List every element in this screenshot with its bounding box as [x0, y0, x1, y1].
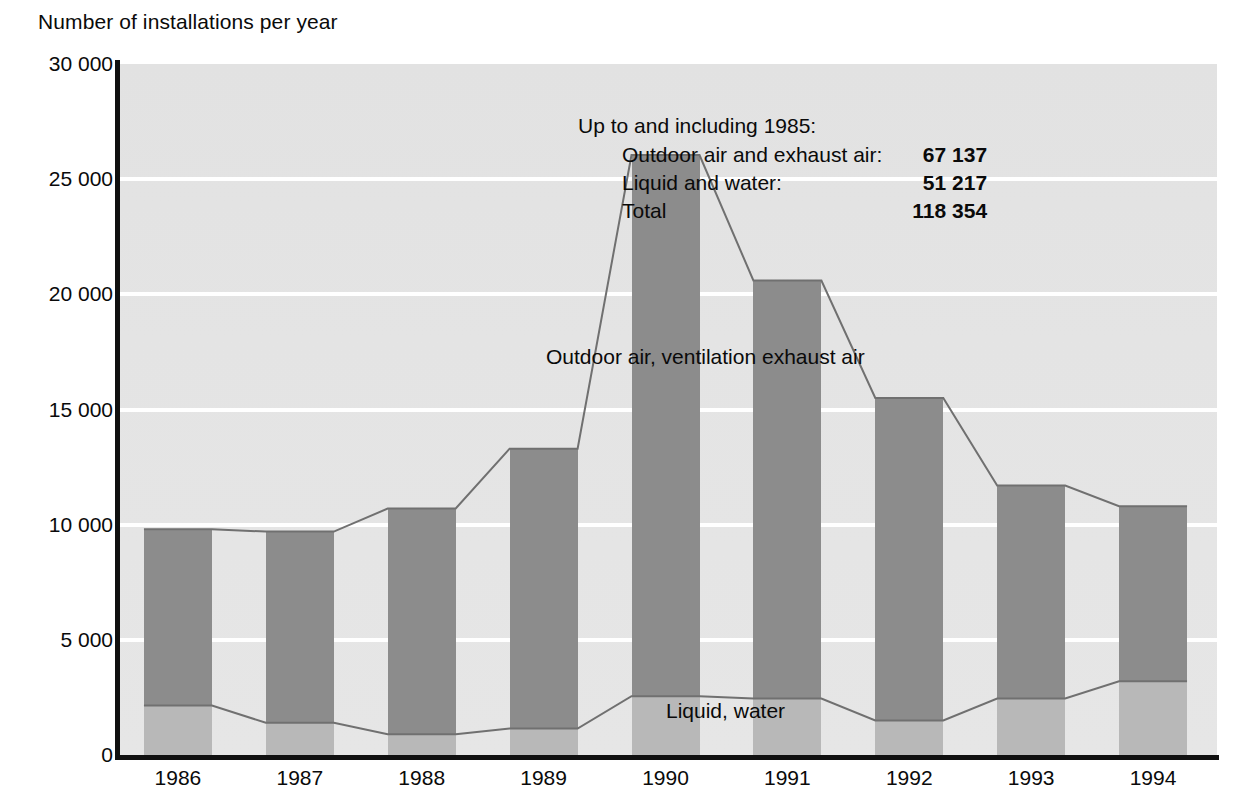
x-tick-label-1990: 1990	[642, 766, 689, 790]
chart-plot-area: Outdoor air, ventilation exhaust air Liq…	[120, 64, 1217, 755]
annotation-row: Outdoor air and exhaust air:67 137	[622, 141, 987, 169]
annotation-row: Liquid and water:51 217	[622, 169, 987, 197]
x-tick-label-1993: 1993	[1008, 766, 1055, 790]
annotation-row-value: 67 137	[882, 141, 987, 169]
x-tick-label-1994: 1994	[1130, 766, 1177, 790]
series-label-liquid-water: Liquid, water	[666, 699, 785, 723]
annotation-row-value: 51 217	[882, 169, 987, 197]
annotation-row-label: Outdoor air and exhaust air:	[622, 141, 882, 169]
x-tick-label-1987: 1987	[276, 766, 323, 790]
y-axis-title: Number of installations per year	[38, 10, 338, 34]
y-tick-label: 10 000	[49, 513, 113, 537]
y-tick-label: 0	[101, 743, 113, 767]
annotation-row-label: Total	[622, 197, 882, 225]
series-label-outdoor-air: Outdoor air, ventilation exhaust air	[546, 345, 865, 369]
annotation-box: Up to and including 1985: Outdoor air an…	[578, 112, 987, 225]
x-tick-label-1989: 1989	[520, 766, 567, 790]
x-axis-line	[115, 755, 1219, 760]
y-tick-label: 15 000	[49, 398, 113, 422]
x-tick-label-1991: 1991	[764, 766, 811, 790]
annotation-row: Total118 354	[622, 197, 987, 225]
y-tick-label: 25 000	[49, 167, 113, 191]
y-tick-label: 20 000	[49, 282, 113, 306]
annotation-row-value: 118 354	[882, 197, 987, 225]
annotation-heading: Up to and including 1985:	[578, 112, 987, 140]
x-tick-label-1992: 1992	[886, 766, 933, 790]
y-tick-label: 5 000	[60, 628, 113, 652]
annotation-row-label: Liquid and water:	[622, 169, 882, 197]
x-tick-label-1986: 1986	[155, 766, 202, 790]
annotation-table: Outdoor air and exhaust air:67 137Liquid…	[622, 141, 987, 225]
y-tick-label: 30 000	[49, 52, 113, 76]
x-tick-label-1988: 1988	[398, 766, 445, 790]
